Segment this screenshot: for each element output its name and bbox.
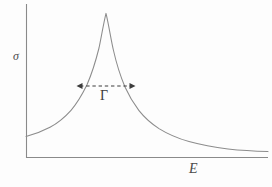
energy-axis-label: E [189, 162, 198, 176]
resonance-plot-figure: σ E Γ [0, 0, 272, 187]
plot-canvas [0, 0, 272, 187]
gamma-arrowhead-right [130, 83, 136, 89]
gamma-width-label: Γ [100, 89, 108, 103]
sigma-axis-label: σ [13, 50, 19, 62]
gamma-arrowhead-left [77, 83, 83, 89]
resonance-curve [26, 13, 268, 151]
